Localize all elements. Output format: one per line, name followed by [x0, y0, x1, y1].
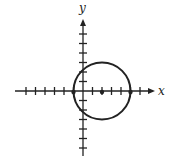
coordinate-plane — [0, 0, 171, 164]
point-right-intersection — [128, 90, 132, 94]
x-axis-arrow-icon — [148, 88, 155, 94]
point-center — [100, 90, 104, 94]
y-axis-arrow-icon — [80, 19, 86, 26]
x-axis-label: x — [158, 85, 165, 97]
y-axis-label: y — [79, 2, 86, 14]
point-left-intersection — [71, 90, 75, 94]
